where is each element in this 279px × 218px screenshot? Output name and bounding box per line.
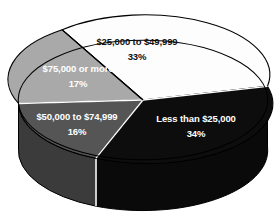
pie-chart: $25,000 to $49,999 33% Less than $25,000… xyxy=(0,0,279,218)
pie-chart-graphic xyxy=(0,0,279,218)
